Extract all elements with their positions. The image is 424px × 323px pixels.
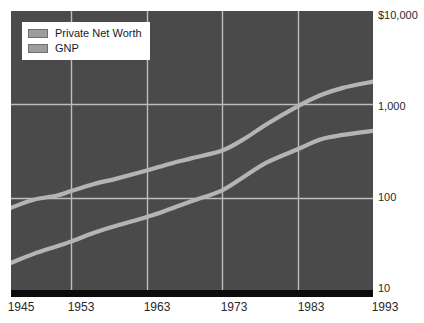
legend-label-private-net-worth: Private Net Worth bbox=[55, 27, 142, 40]
line-chart: Private Net Worth GNP $10,000 1,000 100 … bbox=[0, 0, 424, 323]
horizontal-gridlines bbox=[11, 105, 373, 199]
series-lines bbox=[11, 82, 373, 263]
legend-swatch-private-net-worth bbox=[28, 29, 48, 38]
x-tick-1963: 1963 bbox=[144, 301, 171, 314]
legend-label-gnp: GNP bbox=[55, 42, 79, 55]
y-tick-1000: 1,000 bbox=[378, 101, 406, 112]
x-tick-1973: 1973 bbox=[221, 301, 248, 314]
y-tick-10000: $10,000 bbox=[378, 10, 418, 21]
legend-swatch-gnp bbox=[28, 44, 48, 53]
legend-item-private-net-worth[interactable]: Private Net Worth bbox=[28, 26, 142, 41]
series-line-private-net-worth bbox=[11, 82, 373, 208]
legend-item-gnp[interactable]: GNP bbox=[28, 41, 142, 56]
series-line-gnp bbox=[11, 131, 373, 263]
y-tick-100: 100 bbox=[378, 192, 396, 203]
chart-legend: Private Net Worth GNP bbox=[22, 22, 150, 60]
y-tick-10: 10 bbox=[378, 283, 390, 294]
x-tick-1983: 1983 bbox=[298, 301, 325, 314]
x-tick-1953: 1953 bbox=[68, 301, 95, 314]
x-axis-baseline bbox=[11, 290, 373, 297]
x-tick-1945: 1945 bbox=[8, 301, 35, 314]
x-tick-1993: 1993 bbox=[372, 301, 399, 314]
